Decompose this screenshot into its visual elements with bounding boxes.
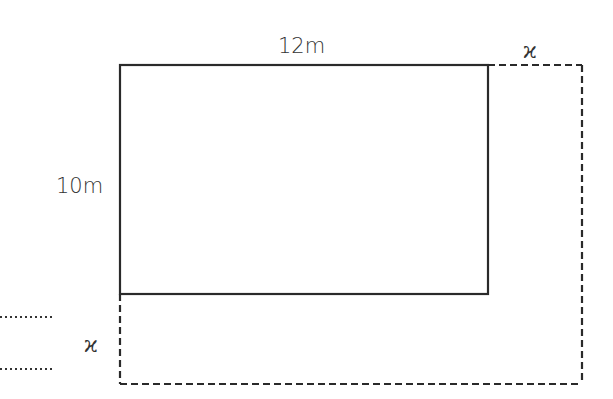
inner-solid-rectangle [120, 65, 488, 294]
x-extension-label-top: ϰ [523, 40, 537, 62]
width-label: 12m [278, 36, 325, 57]
x-extension-label-left: ϰ [84, 334, 98, 356]
height-label: 10m [56, 176, 103, 197]
outer-dashed-rectangle [120, 65, 582, 384]
